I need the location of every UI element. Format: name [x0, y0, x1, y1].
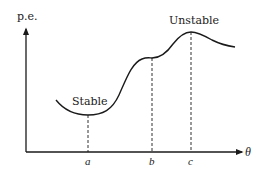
unstable-label: Unstable — [169, 14, 219, 27]
potential-energy-diagram: p.e. θ Stable Unstable a b c — [0, 0, 259, 174]
x-axis-label: θ — [245, 145, 251, 159]
stable-label: Stable — [72, 95, 108, 108]
point-label-b: b — [149, 155, 155, 167]
y-axis-label: p.e. — [17, 10, 38, 23]
point-label-a: a — [85, 155, 91, 167]
point-label-c: c — [188, 155, 193, 167]
